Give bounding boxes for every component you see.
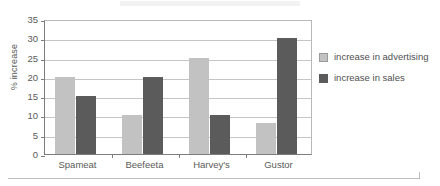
bar [143, 77, 163, 154]
scan-artifact [120, 1, 300, 6]
x-axis-separator-tick [179, 154, 180, 158]
bar [122, 115, 142, 154]
y-axis-tick-label: 15 [16, 92, 38, 102]
bar [189, 58, 209, 154]
y-axis-tick-label: 20 [16, 73, 38, 83]
bar [277, 38, 297, 154]
legend-item[interactable]: increase in sales [319, 73, 439, 83]
chart-legend: increase in advertising increase in sale… [319, 52, 439, 94]
bar-group [45, 21, 112, 154]
bar-group [246, 21, 313, 154]
page-divider-rule [8, 178, 420, 179]
x-axis-category-label: Gustor [245, 159, 312, 170]
x-axis-separator-tick [246, 154, 247, 158]
legend-item-label: increase in advertising [334, 52, 429, 62]
y-axis-tick-label: 10 [16, 111, 38, 121]
x-axis-category-label: Spameat [44, 159, 111, 170]
legend-item-label: increase in sales [334, 73, 405, 83]
page-divider-endcap [419, 172, 420, 179]
y-axis-tick-label: 35 [16, 15, 38, 25]
legend-swatch-dark-icon [319, 74, 328, 83]
bar [55, 77, 75, 154]
x-axis-category-label: Harvey's [178, 159, 245, 170]
legend-swatch-light-icon [319, 53, 328, 62]
y-axis-tick-mark [41, 156, 45, 157]
bar-group [179, 21, 246, 154]
bar [210, 115, 230, 154]
y-axis-tick-labels: 05101520253035 [16, 14, 38, 156]
x-axis-separator-tick [112, 154, 113, 158]
y-axis-tick-label: 5 [16, 131, 38, 141]
y-axis-tick-label: 0 [16, 150, 38, 160]
x-axis-category-labels: SpameatBeefeetaHarvey'sGustor [44, 159, 312, 173]
bar-group [112, 21, 179, 154]
plot-area [44, 20, 312, 155]
bar [256, 123, 276, 154]
legend-item[interactable]: increase in advertising [319, 52, 439, 62]
bar-chart-figure: % increase 05101520253035 SpameatBeefeet… [0, 0, 440, 186]
x-axis-category-label: Beefeeta [111, 159, 178, 170]
y-axis-tick-label: 25 [16, 54, 38, 64]
bar [76, 96, 96, 154]
y-axis-tick-label: 30 [16, 34, 38, 44]
